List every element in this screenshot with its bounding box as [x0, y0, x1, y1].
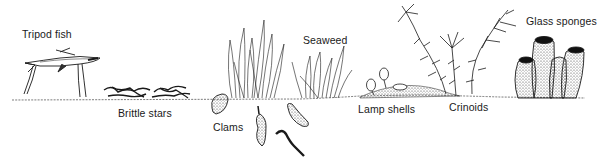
label-brittle-stars: Brittle stars [118, 107, 172, 119]
label-crinoids: Crinoids [449, 101, 488, 113]
seafloor-line [12, 95, 585, 100]
illustration [0, 0, 608, 168]
label-clams: Clams [213, 121, 243, 133]
label-seaweed: Seaweed [303, 34, 347, 46]
seaweed-drawing [228, 20, 352, 98]
label-glass-sponges: Glass sponges [526, 15, 597, 27]
seafloor-diagram: Tripod fish Brittle stars Clams Seaweed … [0, 0, 608, 168]
lamp-shells-drawing [360, 68, 460, 98]
brittle-stars-drawing [104, 86, 190, 98]
label-lamp-shells: Lamp shells [358, 103, 415, 115]
tripod-fish-drawing [24, 48, 100, 97]
glass-sponges-drawing [515, 37, 584, 99]
crinoids-drawing [398, 4, 516, 96]
label-tripod-fish: Tripod fish [22, 28, 72, 40]
